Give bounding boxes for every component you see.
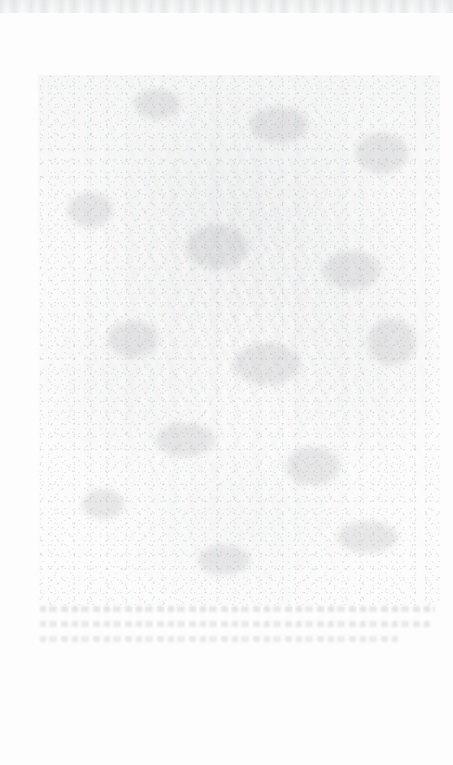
caption-line <box>40 636 398 642</box>
residual-blotch <box>82 489 124 519</box>
residual-blotch <box>134 89 180 119</box>
residual-blotch <box>108 321 158 357</box>
scanned-page <box>0 0 453 765</box>
residual-blotch <box>234 343 300 385</box>
residual-blotch <box>324 251 380 289</box>
caption-line-text <box>40 606 41 607</box>
faded-image-plate <box>38 75 440 605</box>
residual-blotch <box>186 225 248 269</box>
residual-blotch <box>368 319 416 365</box>
residual-blotch <box>250 107 308 143</box>
caption-line <box>40 606 435 612</box>
residual-blotch <box>156 423 214 457</box>
caption-block <box>40 606 435 651</box>
residual-blotch <box>198 545 250 575</box>
caption-line-text <box>40 636 41 637</box>
caption-line <box>40 621 432 627</box>
residual-blotch <box>286 447 340 485</box>
residual-blotch <box>68 193 112 227</box>
residual-blotch <box>356 133 408 173</box>
caption-line-text <box>40 621 41 622</box>
residual-blotch <box>338 521 398 553</box>
scan-edge-band <box>0 0 453 13</box>
